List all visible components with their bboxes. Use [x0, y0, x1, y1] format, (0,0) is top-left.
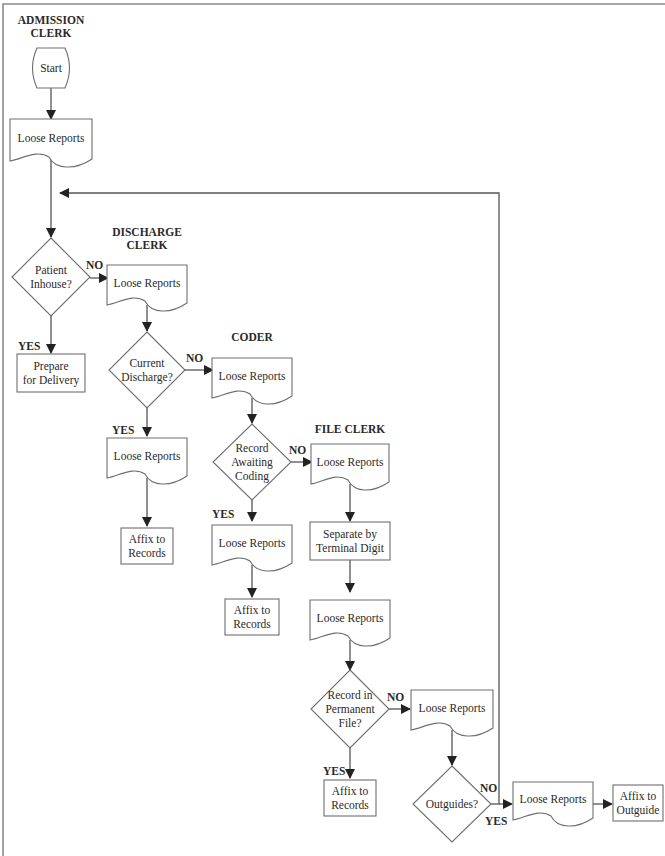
lane-file-clerk: FILE CLERK [315, 423, 386, 435]
node-label: Loose Reports [219, 537, 286, 550]
node-label: Loose Reports [419, 702, 486, 715]
flowchart: ADMISSIONCLERK DISCHARGECLERK CODER FILE… [0, 0, 665, 856]
node-doc8: Loose Reports [411, 690, 493, 736]
node-doc1: Loose Reports [10, 119, 92, 167]
node-label: Loose Reports [317, 456, 384, 469]
node-start: Start [33, 48, 70, 88]
node-affix2: Affix toRecords [225, 599, 279, 635]
label-yes-current: YES [112, 424, 134, 436]
lane-discharge-clerk: DISCHARGECLERK [112, 226, 182, 251]
node-affix-out: Affix toOutguide [613, 785, 663, 821]
node-prepare: Preparefor Delivery [17, 354, 85, 392]
node-doc7: Loose Reports [310, 600, 390, 646]
lane-coder: CODER [231, 331, 273, 343]
label-yes-awaiting: YES [212, 508, 234, 520]
node-label: Loose Reports [317, 612, 384, 625]
label-no-permanent: NO [387, 691, 404, 703]
label-no-current: NO [186, 352, 203, 364]
label-no-inhouse: NO [86, 259, 103, 271]
node-doc3: Loose Reports [107, 438, 187, 484]
node-doc4: Loose Reports [212, 358, 292, 404]
node-label: Loose Reports [219, 370, 286, 383]
label-no-outguides: NO [480, 782, 497, 794]
label-yes-inhouse: YES [18, 340, 40, 352]
lane-admission-clerk: ADMISSIONCLERK [18, 14, 85, 39]
node-dec-current: CurrentDischarge? [109, 332, 185, 408]
label-yes-outguides: YES [485, 815, 507, 827]
node-dec-permanent: Record inPermanentFile? [311, 670, 389, 748]
node-dec-awaiting: RecordAwaitingCoding [213, 424, 291, 500]
node-doc6: Loose Reports [311, 444, 389, 490]
node-label: Separate byTerminal Digit [316, 528, 385, 555]
label-yes-permanent: YES [323, 765, 345, 777]
node-label: Affix toOutguide [617, 790, 660, 817]
node-label: RecordAwaitingCoding [231, 442, 273, 483]
node-doc9: Loose Reports [513, 782, 593, 826]
node-label: Loose Reports [114, 277, 181, 290]
node-dec-outguides: Outguides? [413, 766, 491, 842]
nodes: StartLoose ReportsPatientInhouse?Prepare… [10, 48, 663, 842]
node-doc2: Loose Reports [107, 265, 187, 311]
node-label: Loose Reports [114, 450, 181, 463]
decision-diamond [109, 332, 185, 408]
node-label: Start [40, 62, 63, 74]
node-affix1: Affix toRecords [121, 528, 173, 564]
node-label: Loose Reports [18, 132, 85, 145]
node-doc5: Loose Reports [212, 525, 292, 571]
node-affix3: Affix toRecords [324, 780, 376, 816]
node-dec-inhouse: PatientInhouse? [12, 238, 90, 316]
decision-diamond [12, 238, 90, 316]
label-no-awaiting: NO [289, 444, 306, 456]
node-label: Loose Reports [520, 793, 587, 806]
node-separate: Separate byTerminal Digit [310, 522, 390, 560]
node-label: Outguides? [426, 798, 478, 811]
